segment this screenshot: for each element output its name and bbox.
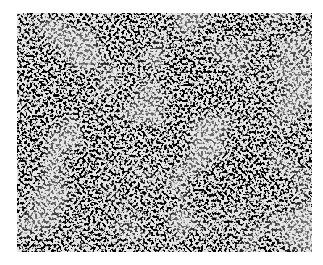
- micrograph-image: [17, 13, 312, 252]
- micrograph-texture: [17, 13, 312, 252]
